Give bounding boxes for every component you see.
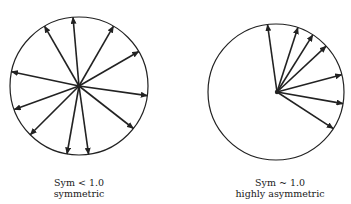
symmetric-circle-panel [10, 17, 148, 155]
vector-arrow [268, 25, 278, 93]
symmetric-caption-value: Sym < 1.0 [29, 177, 129, 188]
vector-arrow [14, 86, 79, 110]
asymmetric-caption-value: Sym ~ 1.0 [225, 177, 335, 188]
origin-point [275, 90, 279, 94]
vector-arrow [12, 72, 80, 86]
asymmetric-circle-panel [208, 24, 344, 160]
asymmetric-caption-desc: highly asymmetric [225, 188, 335, 199]
asymmetric-caption: Sym ~ 1.0 highly asymmetric [225, 177, 335, 199]
origin-point [77, 84, 81, 88]
symmetric-caption: Sym < 1.0 symmetric [29, 177, 129, 199]
vector-arrow [79, 86, 89, 154]
vector-arrow [79, 52, 139, 87]
symmetric-caption-desc: symmetric [29, 188, 129, 199]
vector-arrow [79, 26, 114, 86]
symmetry-diagram [0, 0, 351, 204]
